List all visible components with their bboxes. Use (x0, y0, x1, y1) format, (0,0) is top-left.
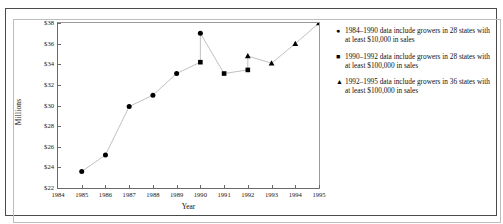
x-axis-tick-label: 1992 (241, 192, 254, 199)
y-axis-tick-mark (58, 126, 61, 127)
legend-item-label: 1990–1992 data include growers in 28 sta… (345, 52, 494, 71)
x-axis-tick-label: 1995 (312, 192, 325, 199)
x-axis-tick-mark (272, 185, 273, 188)
x-axis-tick-mark (177, 185, 178, 188)
x-axis-tick-mark (295, 185, 296, 188)
legend-item: ▲ 1992–1995 data include growers in 36 s… (336, 77, 494, 96)
x-axis-tick-label: 1991 (217, 192, 230, 199)
x-axis-tick-mark (105, 185, 106, 188)
x-axis-title: Year (57, 202, 320, 211)
x-axis-tick-label: 1990 (194, 192, 207, 199)
y-axis-tick-label: $36 (44, 40, 54, 47)
legend-item-label: 1992–1995 data include growers in 36 sta… (345, 77, 494, 96)
x-axis-tick-mark (248, 185, 249, 188)
data-point-circle (174, 71, 179, 76)
y-axis-tick-label: $38 (44, 20, 54, 27)
data-point-square (198, 60, 203, 65)
y-axis-tick-label: $28 (44, 123, 54, 130)
y-axis-tick-mark (58, 188, 61, 189)
x-axis-tick-label: 1993 (265, 192, 278, 199)
data-point-square (246, 68, 251, 73)
y-axis-tick-mark (58, 106, 61, 107)
plot-area: $22$24$26$28$30$32$34$36$381984198519861… (57, 22, 320, 189)
y-axis-tick-label: $24 (44, 164, 54, 171)
data-point-triangle (245, 53, 251, 58)
y-axis-tick-mark (58, 167, 61, 168)
chart-figure: Millions $22$24$26$28$30$32$34$36$381984… (0, 0, 503, 224)
data-point-circle (198, 31, 203, 36)
circle-marker-icon: ● (336, 26, 345, 36)
x-axis-tick-mark (319, 185, 320, 188)
data-point-square (222, 71, 227, 76)
x-axis-tick-label: 1984 (51, 192, 64, 199)
data-point-circle (79, 169, 84, 174)
legend-item: ■ 1990–1992 data include growers in 28 s… (336, 52, 494, 71)
square-marker-icon: ■ (336, 52, 345, 62)
y-axis-tick-mark (58, 23, 61, 24)
x-axis-tick-mark (129, 185, 130, 188)
data-point-circle (150, 93, 155, 98)
y-axis-tick-label: $26 (44, 143, 54, 150)
y-axis-tick-mark (58, 44, 61, 45)
x-axis-tick-mark (224, 185, 225, 188)
data-point-triangle (316, 23, 319, 25)
y-axis-tick-mark (58, 64, 61, 65)
plot-series-svg (58, 23, 319, 188)
y-axis-tick-label: $32 (44, 82, 54, 89)
x-axis-tick-label: 1989 (170, 192, 183, 199)
y-axis-tick-mark (58, 147, 61, 148)
legend-item: ● 1984–1990 data include growers in 28 s… (336, 26, 494, 45)
x-axis-tick-label: 1985 (75, 192, 88, 199)
y-axis-title: Millions (14, 99, 23, 126)
y-axis-tick-label: $30 (44, 102, 54, 109)
chart-legend: ● 1984–1990 data include growers in 28 s… (336, 26, 494, 103)
data-point-circle (127, 104, 132, 109)
x-axis-tick-label: 1987 (123, 192, 136, 199)
x-axis-tick-mark (153, 185, 154, 188)
x-axis-tick-label: 1986 (99, 192, 112, 199)
series-line (82, 23, 319, 172)
x-axis-tick-mark (82, 185, 83, 188)
triangle-marker-icon: ▲ (336, 77, 345, 87)
x-axis-tick-mark (200, 185, 201, 188)
legend-item-label: 1984–1990 data include growers in 28 sta… (345, 26, 494, 45)
x-axis-tick-label: 1988 (146, 192, 159, 199)
data-point-circle (103, 153, 108, 158)
y-axis-tick-mark (58, 85, 61, 86)
y-axis-tick-label: $34 (44, 61, 54, 68)
x-axis-tick-label: 1994 (289, 192, 302, 199)
